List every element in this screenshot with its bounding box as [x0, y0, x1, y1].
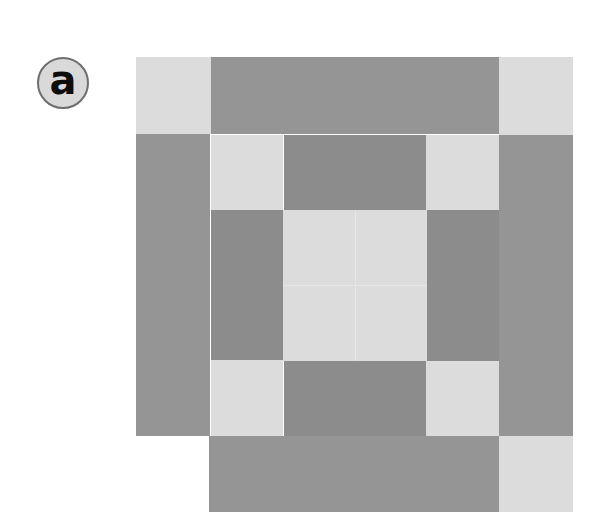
inner-top-left-light	[211, 135, 283, 210]
inner-bottom-left-light	[211, 360, 283, 436]
outer-right-bar-dark	[499, 135, 573, 436]
outer-bottom-right-light	[499, 436, 573, 512]
inner-bottom-bar-dark	[284, 361, 426, 436]
outer-left-bar-dark	[136, 134, 210, 436]
inner-bottom-right-light	[426, 361, 499, 436]
center-horizontal-seam	[283, 285, 427, 286]
inner-left-bar-dark	[211, 210, 283, 360]
outer-top-left-light	[136, 57, 211, 134]
inner-right-bar-dark	[427, 210, 499, 361]
panel-label-text: a	[50, 60, 77, 100]
outer-bottom-bar-dark	[209, 436, 499, 512]
inner-top-right-light	[426, 135, 499, 210]
outer-top-right-light	[499, 57, 573, 135]
inner-top-bar-dark	[284, 135, 426, 210]
panel-label: a	[37, 57, 89, 109]
outer-top-bar-dark	[211, 57, 499, 134]
